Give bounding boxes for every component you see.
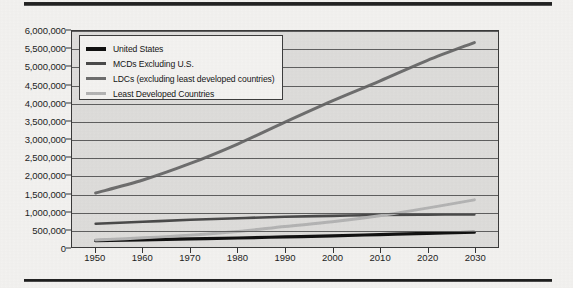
legend-swatch-icon	[86, 62, 106, 65]
y-tick-mark	[66, 84, 71, 85]
gridline	[72, 140, 498, 141]
y-tick-label: 500,000	[32, 224, 66, 235]
y-tick-mark	[66, 139, 71, 140]
x-tick-mark	[285, 248, 286, 253]
x-tick-label: 2010	[370, 252, 391, 263]
y-tick-label: 1,000,000	[25, 206, 66, 217]
y-tick-label: 5,500,000	[25, 43, 66, 54]
y-tick-mark	[66, 157, 71, 158]
gridline	[72, 176, 498, 177]
legend-label: Least Developed Countries	[113, 89, 214, 99]
y-tick-mark	[66, 229, 71, 230]
y-tick-mark	[66, 211, 71, 212]
x-tick-label: 2030	[465, 252, 486, 263]
legend-label: United States	[113, 44, 163, 54]
series-line	[96, 214, 475, 223]
gridline	[72, 195, 498, 196]
gridline	[72, 231, 498, 232]
x-tick-mark	[475, 248, 476, 253]
x-tick-label: 2000	[322, 252, 343, 263]
gridline	[72, 122, 498, 123]
y-tick-mark	[66, 193, 71, 194]
y-tick-label: 2,500,000	[25, 152, 66, 163]
legend-item: Least Developed Countries	[86, 86, 276, 101]
x-tick-mark	[95, 248, 96, 253]
x-tick-label: 1990	[274, 252, 295, 263]
x-tick-mark	[142, 248, 143, 253]
top-rule	[24, 2, 552, 6]
x-tick-label: 1980	[227, 252, 248, 263]
bottom-rule	[24, 279, 552, 282]
y-tick-label: 1,500,000	[25, 188, 66, 199]
x-tick-mark	[380, 248, 381, 253]
legend-swatch-icon	[86, 92, 106, 95]
x-tick-mark	[190, 248, 191, 253]
y-tick-label: 4,000,000	[25, 97, 66, 108]
scanned-page: 0500,0001,000,0001,500,0002,000,0002,500…	[0, 0, 573, 288]
x-tick-label: 1970	[179, 252, 200, 263]
legend-swatch-icon	[86, 47, 106, 51]
gridline	[72, 158, 498, 159]
population-line-chart: 0500,0001,000,0001,500,0002,000,0002,500…	[0, 10, 573, 278]
legend-item: LDCs (excluding least developed countrie…	[86, 71, 276, 86]
y-tick-mark	[66, 248, 71, 249]
x-tick-label: 1950	[84, 252, 105, 263]
y-tick-label: 2,000,000	[25, 170, 66, 181]
y-tick-label: 6,000,000	[25, 25, 66, 36]
y-tick-mark	[66, 175, 71, 176]
x-tick-mark	[428, 248, 429, 253]
legend-item: MCDs Excluding U.S.	[86, 56, 276, 71]
y-tick-label: 3,500,000	[25, 115, 66, 126]
x-tick-mark	[333, 248, 334, 253]
x-tick-label: 1960	[132, 252, 153, 263]
x-tick-label: 2020	[417, 252, 438, 263]
y-tick-label: 4,500,000	[25, 79, 66, 90]
y-tick-mark	[66, 48, 71, 49]
legend-label: MCDs Excluding U.S.	[113, 59, 194, 69]
y-tick-mark	[66, 30, 71, 31]
y-tick-label: 5,000,000	[25, 61, 66, 72]
x-tick-mark	[237, 248, 238, 253]
legend: United StatesMCDs Excluding U.S.LDCs (ex…	[79, 35, 283, 100]
legend-item: United States	[86, 41, 276, 56]
legend-swatch-icon	[86, 77, 106, 80]
gridline	[72, 31, 498, 32]
y-tick-label: 3,000,000	[25, 134, 66, 145]
legend-label: LDCs (excluding least developed countrie…	[113, 74, 275, 84]
y-tick-mark	[66, 102, 71, 103]
y-axis-labels: 0500,0001,000,0001,500,0002,000,0002,500…	[0, 30, 66, 248]
gridline	[72, 213, 498, 214]
y-tick-mark	[66, 66, 71, 67]
y-tick-mark	[66, 120, 71, 121]
gridline	[72, 104, 498, 105]
x-axis-labels: 195019601970198019902000201020202030	[0, 252, 573, 272]
